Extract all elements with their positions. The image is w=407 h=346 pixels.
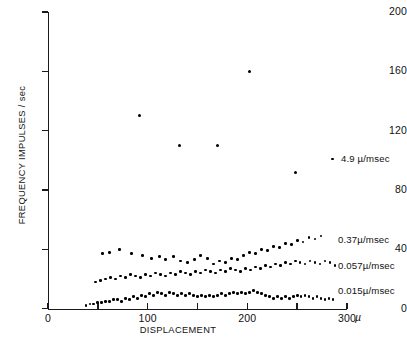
data-point <box>199 254 202 257</box>
data-point <box>204 295 207 298</box>
data-point <box>224 261 227 264</box>
data-point <box>272 245 275 248</box>
data-point <box>332 298 335 301</box>
data-point <box>334 264 337 267</box>
data-point <box>274 263 277 266</box>
data-point <box>156 291 159 294</box>
data-point <box>101 252 104 255</box>
data-point <box>296 239 299 242</box>
data-point <box>308 236 311 239</box>
x-tick-100 <box>147 303 148 309</box>
data-point <box>160 292 163 295</box>
data-point <box>320 235 323 238</box>
data-point <box>234 269 237 272</box>
data-point <box>184 272 187 275</box>
data-point <box>172 292 175 295</box>
data-point <box>120 300 123 303</box>
data-point <box>272 297 275 300</box>
series-label-1: 0.37µ/msec <box>338 234 389 245</box>
data-point <box>256 291 259 294</box>
data-point <box>264 264 267 267</box>
data-point <box>254 252 257 255</box>
data-point <box>204 269 207 272</box>
data-point <box>192 294 195 297</box>
data-point <box>260 248 263 251</box>
y-tick-label-120: 120 <box>371 124 407 136</box>
data-point <box>219 269 222 272</box>
data-point <box>259 267 262 270</box>
data-point <box>314 238 317 241</box>
data-point <box>169 272 172 275</box>
data-point <box>140 294 143 297</box>
data-point <box>124 276 127 279</box>
x-axis-unit: µ <box>355 311 361 323</box>
data-point <box>309 260 312 263</box>
x-tick-label-200: 200 <box>227 312 267 324</box>
data-point <box>184 294 187 297</box>
data-point <box>254 266 257 269</box>
data-point <box>220 292 223 295</box>
data-point <box>228 292 231 295</box>
data-point <box>216 144 219 147</box>
data-point <box>148 292 151 295</box>
data-point <box>89 303 92 306</box>
data-point <box>308 295 311 298</box>
x-tick-label-100: 100 <box>128 312 168 324</box>
data-point <box>186 261 189 264</box>
x-axis-line <box>48 309 347 310</box>
data-point <box>284 242 287 245</box>
data-point <box>292 295 295 298</box>
data-point <box>299 261 302 264</box>
data-point <box>300 295 303 298</box>
data-point <box>92 303 95 306</box>
data-point <box>124 297 127 300</box>
data-point <box>94 281 97 284</box>
data-point <box>329 261 332 264</box>
data-point <box>164 294 167 297</box>
data-point <box>104 278 107 281</box>
data-point <box>304 263 307 266</box>
data-point <box>85 304 88 307</box>
data-point <box>289 263 292 266</box>
data-point <box>216 294 219 297</box>
data-point <box>196 295 199 298</box>
data-point <box>279 264 282 267</box>
data-point <box>252 289 255 292</box>
data-point <box>114 278 117 281</box>
x-tick-0 <box>47 303 48 309</box>
legend-marker-dot <box>331 158 334 161</box>
data-point <box>224 270 227 273</box>
data-point <box>128 298 131 301</box>
data-point <box>174 273 177 276</box>
data-point <box>141 254 144 257</box>
data-point <box>284 295 287 298</box>
y-axis-title: FREQUENCY IMPULSES / sec <box>17 65 27 245</box>
data-point <box>158 255 161 258</box>
data-point <box>328 297 331 300</box>
data-point <box>244 292 247 295</box>
data-point <box>316 295 319 298</box>
data-point <box>99 279 102 282</box>
y-tick-40 <box>42 249 48 250</box>
data-point <box>193 258 196 261</box>
data-point <box>278 246 281 249</box>
data-point <box>218 260 221 263</box>
data-point <box>240 291 243 294</box>
x-tick-200 <box>247 303 248 309</box>
data-point <box>144 295 147 298</box>
data-point <box>320 297 323 300</box>
data-point <box>139 276 142 279</box>
data-point <box>180 292 183 295</box>
data-point <box>159 273 162 276</box>
y-tick-200 <box>42 11 48 12</box>
y-tick-label-0: 0 <box>371 302 407 314</box>
data-point <box>264 294 267 297</box>
data-point <box>179 260 182 263</box>
data-point <box>152 294 155 297</box>
data-point <box>100 301 103 304</box>
data-point <box>134 275 137 278</box>
data-point <box>116 298 119 301</box>
data-point <box>248 291 251 294</box>
data-point <box>304 294 307 297</box>
data-point <box>164 275 167 278</box>
